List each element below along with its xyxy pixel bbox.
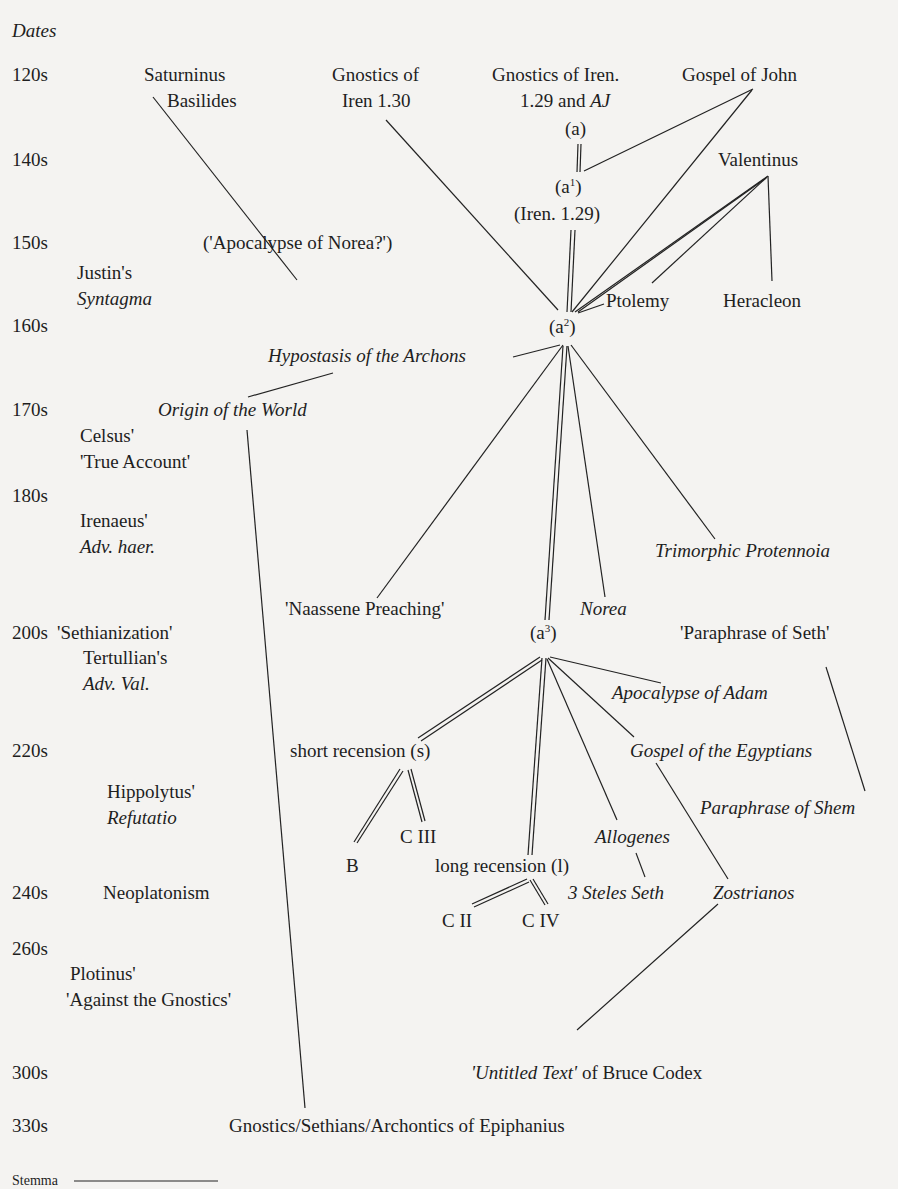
node-gnostics-iren-130: Gnostics of	[332, 64, 419, 86]
a3-close: )	[550, 622, 556, 643]
node-long-recension: long recension (l)	[435, 855, 569, 877]
date-160s: 160s	[12, 315, 48, 337]
node-gnostics-iren-129: Gnostics of Iren.	[492, 64, 619, 86]
node-a: (a)	[565, 118, 586, 140]
node-origin-of-the-world: Origin of the World	[158, 399, 307, 421]
node-a3: (a3)	[530, 622, 557, 644]
context-plotinus: Plotinus'	[70, 963, 136, 985]
node-c-ii: C II	[442, 910, 472, 932]
context-hippolytus-work: Refutatio	[107, 807, 177, 829]
node-a2: (a2)	[549, 316, 576, 338]
context-celsus-work: 'True Account'	[80, 451, 190, 473]
node-apocalypse-of-adam: Apocalypse of Adam	[612, 682, 768, 704]
node-b: B	[346, 855, 359, 877]
node-short-recension: short recension (s)	[290, 740, 430, 762]
node-c-iv: C IV	[522, 910, 559, 932]
node-paraphrase-of-seth: 'Paraphrase of Seth'	[680, 622, 829, 644]
node-gospel-of-john: Gospel of John	[682, 64, 797, 86]
context-justin-work: Syntagma	[77, 288, 152, 310]
date-260s: 260s	[12, 938, 48, 960]
node-paraphrase-of-shem: Paraphrase of Shem	[700, 797, 855, 819]
date-150s: 150s	[12, 232, 48, 254]
node-epiphanius: Gnostics/Sethians/Archontics of Epiphani…	[229, 1115, 565, 1137]
context-irenaeus: Irenaeus'	[80, 510, 148, 532]
node-heracleon: Heracleon	[723, 290, 801, 312]
node-3-steles-seth: 3 Steles Seth	[568, 882, 664, 904]
ref-aj: AJ	[590, 90, 610, 111]
node-c-iii: C III	[400, 826, 436, 848]
node-untitled-text-bruce-codex: 'Untitled Text' of Bruce Codex	[471, 1062, 702, 1084]
context-plotinus-work: 'Against the Gnostics'	[66, 989, 231, 1011]
node-iren-129: (Iren. 1.29)	[514, 203, 600, 225]
date-220s: 220s	[12, 740, 48, 762]
date-140s: 140s	[12, 149, 48, 171]
node-hypostasis-of-the-archons: Hypostasis of the Archons	[268, 345, 466, 367]
date-180s: 180s	[12, 485, 48, 507]
date-170s: 170s	[12, 399, 48, 421]
node-a1: (a1)	[555, 176, 582, 198]
node-zostrianos: Zostrianos	[713, 882, 794, 904]
node-gospel-of-the-egyptians: Gospel of the Egyptians	[630, 740, 812, 762]
context-hippolytus: Hippolytus'	[107, 781, 195, 803]
date-300s: 300s	[12, 1062, 48, 1084]
date-200s: 200s	[12, 622, 48, 644]
untitled-text-source: of Bruce Codex	[577, 1062, 702, 1083]
context-tertullian-work: Adv. Val.	[83, 673, 150, 695]
context-irenaeus-work: Adv. haer.	[80, 536, 155, 558]
node-gnostics-iren-129-ref: 1.29 and AJ	[520, 90, 610, 112]
a3-base: (a	[530, 622, 545, 643]
node-gnostics-iren-130-ref: Iren 1.30	[342, 90, 411, 112]
node-norea: Norea	[580, 598, 627, 620]
context-justin: Justin's	[77, 262, 132, 284]
node-ptolemy: Ptolemy	[606, 290, 669, 312]
node-allogenes: Allogenes	[595, 826, 670, 848]
node-apocalypse-of-norea: ('Apocalypse of Norea?')	[203, 232, 392, 254]
date-330s: 330s	[12, 1115, 48, 1137]
untitled-text-title: 'Untitled Text'	[471, 1062, 577, 1083]
node-valentinus: Valentinus	[718, 149, 798, 171]
node-saturninus: Saturninus	[144, 64, 225, 86]
node-naassene-preaching: 'Naassene Preaching'	[285, 598, 444, 620]
a2-close: )	[569, 316, 575, 337]
date-120s: 120s	[12, 64, 48, 86]
dates-axis-label: Dates	[12, 20, 56, 42]
context-tertullian: Tertullian's	[83, 647, 167, 669]
legend-stemma-label: Stemma	[12, 1170, 58, 1189]
a2-base: (a	[549, 316, 564, 337]
node-basilides: Basilides	[167, 90, 237, 112]
context-celsus: Celsus'	[80, 425, 134, 447]
node-trimorphic-protennoia: Trimorphic Protennoia	[655, 540, 830, 562]
date-240s: 240s	[12, 882, 48, 904]
context-neoplatonism: Neoplatonism	[103, 882, 210, 904]
a1-base: (a	[555, 176, 570, 197]
a1-close: )	[575, 176, 581, 197]
context-sethianization: 'Sethianization'	[57, 622, 173, 644]
ref-text: 1.29 and	[520, 90, 585, 111]
